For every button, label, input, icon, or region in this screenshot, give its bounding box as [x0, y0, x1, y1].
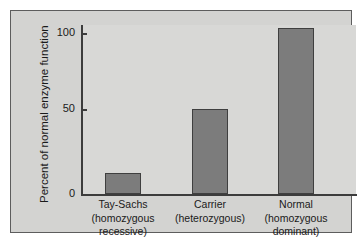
category-line-2: (homozygous: [246, 212, 346, 226]
category-line-1: Tay-Sachs: [73, 198, 173, 212]
bar-normal: [278, 28, 314, 194]
chart-panel: 100 50 0 Percent of normal enzyme functi…: [10, 10, 352, 233]
category-label-normal: Normal (homozygous dominant): [246, 198, 346, 239]
category-line-2: (heterozygous): [160, 212, 260, 226]
y-tick-mark-100: [81, 33, 87, 35]
y-axis-title: Percent of normal enzyme function: [38, 27, 50, 203]
category-line-2: (homozygous: [73, 212, 173, 226]
category-line-1: Carrier: [160, 198, 260, 212]
category-label-carrier: Carrier (heterozygous): [160, 198, 260, 225]
bar-tay-sachs: [105, 173, 141, 194]
figure-canvas: 100 50 0 Percent of normal enzyme functi…: [0, 0, 363, 242]
y-tick-mark-0: [81, 194, 87, 196]
category-line-3: dominant): [246, 225, 346, 239]
x-axis-line: [81, 194, 357, 196]
bar-carrier: [192, 109, 228, 194]
y-tick-mark-50: [81, 109, 87, 111]
category-line-1: Normal: [246, 198, 346, 212]
category-line-3: recessive): [73, 225, 173, 239]
category-label-tay-sachs: Tay-Sachs (homozygous recessive): [73, 198, 173, 239]
